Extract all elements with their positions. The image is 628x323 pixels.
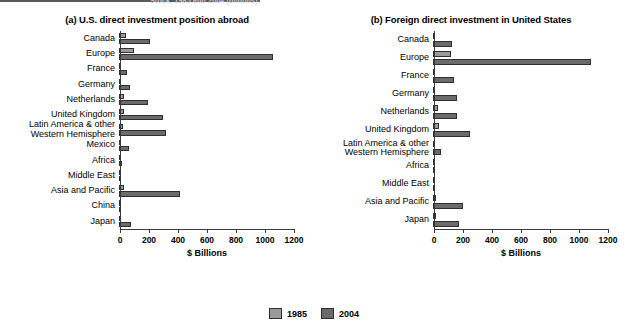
bar-group bbox=[119, 46, 314, 61]
category-label: France bbox=[314, 71, 433, 81]
bar-2004[interactable] bbox=[433, 203, 463, 209]
bar-2004[interactable] bbox=[119, 39, 150, 44]
chart-legend: 1985 2004 bbox=[0, 308, 628, 319]
category-label: Mexico bbox=[0, 140, 119, 150]
axis-tick bbox=[434, 229, 435, 233]
bar-2004[interactable] bbox=[433, 221, 459, 227]
chart-panel-a: (a) U.S. direct investment position abro… bbox=[0, 10, 314, 323]
bar-row: Netherlands bbox=[0, 92, 314, 107]
bar-row: Europe bbox=[314, 49, 628, 67]
bar-group bbox=[433, 175, 628, 193]
bar-2004[interactable] bbox=[433, 95, 457, 101]
bar-row: Japan bbox=[0, 214, 314, 229]
category-label: Netherlands bbox=[0, 95, 119, 105]
bar-group bbox=[119, 77, 314, 92]
bar-row: Germany bbox=[314, 85, 628, 103]
legend-item-1985[interactable]: 1985 bbox=[269, 308, 307, 319]
legend-swatch-2004 bbox=[321, 308, 334, 319]
bar-row: Middle East bbox=[314, 175, 628, 193]
bar-group bbox=[433, 211, 628, 229]
bar-group bbox=[119, 183, 314, 198]
bar-group bbox=[119, 199, 314, 214]
bar-row: Africa bbox=[0, 153, 314, 168]
axis-tick bbox=[294, 229, 295, 233]
panel-a-plot: CanadaEuropeFranceGermanyNetherlandsUnit… bbox=[0, 31, 314, 263]
category-label: France bbox=[0, 64, 119, 74]
bar-2004[interactable] bbox=[433, 59, 591, 65]
category-label: Netherlands bbox=[314, 107, 433, 117]
bar-row: France bbox=[0, 61, 314, 76]
category-label: Europe bbox=[314, 53, 433, 63]
category-label: Asia and Pacific bbox=[314, 197, 433, 207]
bar-row: France bbox=[314, 67, 628, 85]
axis-tick-label: 800 bbox=[543, 235, 557, 245]
category-label: Japan bbox=[0, 217, 119, 227]
bar-group bbox=[119, 214, 314, 229]
bar-group bbox=[119, 61, 314, 76]
category-label: Germany bbox=[0, 80, 119, 90]
axis-tick-label: 1000 bbox=[256, 235, 275, 245]
bar-2004[interactable] bbox=[433, 131, 470, 137]
bar-2004[interactable] bbox=[119, 191, 180, 196]
bar-2004[interactable] bbox=[433, 113, 457, 119]
bar-group bbox=[433, 193, 628, 211]
category-label: Europe bbox=[0, 49, 119, 59]
bar-group bbox=[119, 122, 314, 137]
category-label: China bbox=[0, 201, 119, 211]
bar-1985[interactable] bbox=[119, 48, 134, 53]
bar-group bbox=[119, 107, 314, 122]
category-label: Canada bbox=[314, 35, 433, 45]
bar-row: Europe bbox=[0, 46, 314, 61]
category-label: United Kingdom bbox=[314, 125, 433, 135]
axis-tick-label: 800 bbox=[229, 235, 243, 245]
axis-tick-label: 200 bbox=[456, 235, 470, 245]
axis-tick bbox=[120, 229, 121, 233]
bar-row: Mexico bbox=[0, 138, 314, 153]
bar-2004[interactable] bbox=[433, 77, 454, 83]
bar-2004[interactable] bbox=[433, 41, 452, 47]
panel-b-axis-title: $ Billions bbox=[501, 248, 541, 258]
bar-row: Canada bbox=[314, 31, 628, 49]
axis-tick bbox=[265, 229, 266, 233]
legend-label-1985: 1985 bbox=[287, 309, 307, 319]
axis-tick bbox=[608, 229, 609, 233]
bar-2004[interactable] bbox=[119, 54, 273, 59]
chart-panel-b: (b) Foreign direct investment in United … bbox=[314, 10, 628, 323]
legend-item-2004[interactable]: 2004 bbox=[321, 308, 359, 319]
bar-row: Canada bbox=[0, 31, 314, 46]
category-label: Latin America & other Western Hemisphere bbox=[314, 139, 433, 158]
axis-tick-label: 600 bbox=[200, 235, 214, 245]
axis-tick bbox=[521, 229, 522, 233]
category-label: United Kingdom bbox=[0, 110, 119, 120]
axis-tick-label: 1200 bbox=[599, 235, 618, 245]
category-label: Africa bbox=[314, 161, 433, 171]
bar-row: Middle East bbox=[0, 168, 314, 183]
bar-row: Netherlands bbox=[314, 103, 628, 121]
bar-group bbox=[433, 85, 628, 103]
bar-group bbox=[433, 121, 628, 139]
panel-b-plot: CanadaEuropeFranceGermanyNetherlandsUnit… bbox=[314, 31, 628, 263]
axis-tick bbox=[492, 229, 493, 233]
bar-row: United Kingdom bbox=[314, 121, 628, 139]
bar-row: Asia and Pacific bbox=[314, 193, 628, 211]
panel-a-value-axis bbox=[120, 31, 121, 229]
category-label: Africa bbox=[0, 156, 119, 166]
bar-group bbox=[119, 92, 314, 107]
bar-2004[interactable] bbox=[119, 130, 166, 135]
axis-tick-label: 400 bbox=[171, 235, 185, 245]
axis-tick-label: 1000 bbox=[570, 235, 589, 245]
axis-tick-label: 400 bbox=[485, 235, 499, 245]
axis-tick bbox=[149, 229, 150, 233]
bar-1985[interactable] bbox=[433, 51, 451, 57]
category-label: Middle East bbox=[314, 179, 433, 189]
category-label: Asia and Pacific bbox=[0, 186, 119, 196]
legend-label-2004: 2004 bbox=[339, 309, 359, 319]
bar-2004[interactable] bbox=[119, 100, 148, 105]
bar-row: China bbox=[0, 199, 314, 214]
axis-tick-label: 600 bbox=[514, 235, 528, 245]
bar-group bbox=[433, 67, 628, 85]
category-label: Canada bbox=[0, 34, 119, 44]
chart-panels: (a) U.S. direct investment position abro… bbox=[0, 10, 628, 323]
bar-2004[interactable] bbox=[119, 115, 163, 120]
axis-tick bbox=[550, 229, 551, 233]
